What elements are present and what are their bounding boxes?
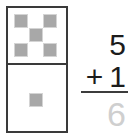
addend-first: 5 <box>78 30 130 60</box>
pip <box>44 44 56 56</box>
pip <box>15 44 27 56</box>
addend-second: 1 <box>109 60 126 93</box>
pip <box>30 94 42 106</box>
pip <box>15 15 27 27</box>
domino-bottom-cell <box>8 65 66 131</box>
sum-rule-line <box>81 91 128 93</box>
pip <box>44 15 56 27</box>
plus-operator: + <box>86 62 104 92</box>
domino-top-cell <box>8 8 66 65</box>
domino-tile <box>6 6 68 133</box>
pip <box>30 29 42 41</box>
sum-answer: 6 <box>78 97 130 131</box>
addend-second-row: +1 <box>78 62 130 92</box>
addition-problem: 5 +1 6 <box>78 0 130 138</box>
